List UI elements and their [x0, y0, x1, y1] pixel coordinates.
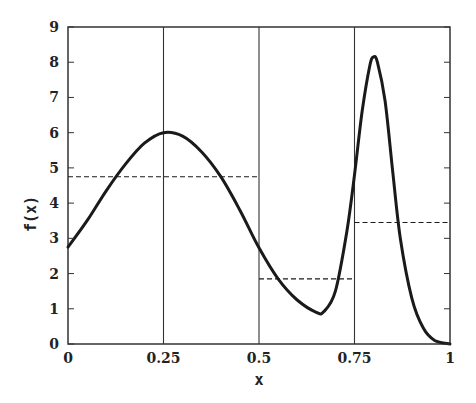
y-tick-label: 5 [49, 160, 59, 176]
y-axis-label: f(x) [22, 196, 40, 232]
x-axis-label: x [254, 371, 263, 389]
x-tick-label: 0.5 [247, 350, 271, 366]
x-tick-label: 0.25 [146, 350, 180, 366]
y-tick-label: 7 [49, 89, 59, 105]
y-tick-label: 9 [49, 19, 59, 35]
y-tick-label: 1 [49, 301, 59, 317]
x-axis-ticks: 00.250.50.751 [63, 350, 455, 366]
y-tick-label: 6 [49, 125, 59, 141]
y-tick-label: 2 [49, 266, 59, 282]
y-tick-label: 3 [49, 230, 59, 246]
y-tick-label: 0 [49, 336, 59, 352]
plot-area [68, 27, 450, 344]
chart: 0123456789 00.250.50.751 x f(x) [0, 0, 476, 403]
x-tick-label: 1 [445, 350, 455, 366]
x-tick-label: 0 [63, 350, 73, 366]
y-tick-label: 8 [49, 54, 59, 70]
x-tick-label: 0.75 [337, 350, 371, 366]
y-tick-label: 4 [49, 195, 59, 211]
